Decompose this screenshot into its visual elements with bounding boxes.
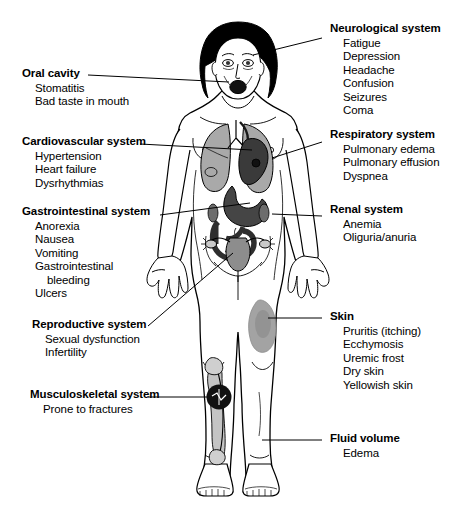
callout-renal-system: Renal system Anemia Oliguria/anuria	[330, 203, 416, 245]
callout-reproductive-system: Reproductive system Sexual dysfunction I…	[32, 318, 146, 360]
list-item: Hypertension	[35, 150, 146, 163]
callout-list: Pruritis (itching) Ecchymosis Uremic fro…	[330, 325, 421, 392]
list-item: Fatigue	[343, 37, 441, 50]
list-item: Stomatitis	[35, 82, 129, 95]
kidney-left	[208, 204, 218, 222]
list-item: Dry skin	[343, 365, 421, 378]
list-item: Ulcers	[35, 287, 150, 300]
list-item: Dyspnea	[343, 170, 439, 183]
callout-list: Stomatitis Bad taste in mouth	[22, 82, 129, 109]
list-item: Edema	[343, 447, 400, 460]
callout-title: Gastrointestinal system	[22, 205, 150, 218]
list-item: Prone to fractures	[43, 403, 159, 416]
callout-cardiovascular-system: Cardiovascular system Hypertension Heart…	[22, 135, 146, 190]
callout-title: Reproductive system	[32, 318, 146, 331]
callout-list: Sexual dysfunction Infertility	[32, 333, 146, 360]
callout-title: Respiratory system	[330, 128, 439, 141]
list-item: Heart failure	[35, 163, 146, 176]
list-item: Nausea	[35, 233, 150, 246]
callout-title: Fluid volume	[330, 432, 400, 445]
callout-fluid-volume: Fluid volume Edema	[330, 432, 400, 460]
list-item: Oliguria/anuria	[343, 231, 416, 244]
callout-oral-cavity: Oral cavity Stomatitis Bad taste in mout…	[22, 67, 129, 109]
ovary-right	[260, 240, 271, 248]
list-item: Infertility	[45, 346, 146, 359]
list-item: Headache	[343, 64, 441, 77]
list-item: Pulmonary edema	[343, 143, 439, 156]
list-item: Pulmonary effusion	[343, 156, 439, 169]
kidney-right	[259, 204, 269, 222]
hand-right	[288, 256, 329, 298]
callout-list: Anemia Oliguria/anuria	[330, 218, 416, 245]
callout-list: Fatigue Depression Headache Confusion Se…	[330, 37, 441, 117]
list-item: Coma	[343, 104, 441, 117]
uterus	[226, 238, 250, 271]
heart-detail	[252, 159, 260, 167]
skin-lesion-core	[255, 310, 271, 338]
pupil-right	[246, 61, 250, 65]
callout-skin: Skin Pruritis (itching) Ecchymosis Uremi…	[330, 310, 421, 392]
callout-gastrointestinal-system: Gastrointestinal system Anorexia Nausea …	[22, 205, 150, 300]
list-item: Yellowish skin	[343, 379, 421, 392]
list-item: Vomiting	[35, 247, 150, 260]
list-item: bleeding	[35, 274, 150, 287]
callout-title: Renal system	[330, 203, 416, 216]
callout-list: Prone to fractures	[30, 403, 159, 416]
list-item: Depression	[343, 50, 441, 63]
list-item: Uremic frost	[343, 352, 421, 365]
callout-title: Cardiovascular system	[22, 135, 146, 148]
callout-list: Pulmonary edema Pulmonary effusion Dyspn…	[330, 143, 439, 183]
list-item: Gastrointestinal	[35, 260, 150, 273]
callout-list: Hypertension Heart failure Dysrhythmias	[22, 150, 146, 190]
ankle-bone	[209, 450, 225, 465]
mouth-open	[230, 80, 246, 93]
list-item: Ecchymosis	[343, 338, 421, 351]
callout-respiratory-system: Respiratory system Pulmonary edema Pulmo…	[330, 128, 439, 183]
callout-list: Anorexia Nausea Vomiting Gastrointestina…	[22, 220, 150, 300]
list-item: Anemia	[343, 218, 416, 231]
hand-left	[147, 256, 188, 298]
patella	[205, 358, 223, 375]
ovary-left	[206, 240, 217, 248]
callout-title: Skin	[330, 310, 421, 323]
foot-left	[197, 464, 233, 496]
list-item: Pruritis (itching)	[343, 325, 421, 338]
list-item: Confusion	[343, 77, 441, 90]
callout-title: Musculoskeletal system	[30, 388, 159, 401]
callout-title: Oral cavity	[22, 67, 129, 80]
list-item: Anorexia	[35, 220, 150, 233]
callout-list: Edema	[330, 447, 400, 460]
callout-title: Neurological system	[330, 22, 441, 35]
foot-right	[243, 464, 279, 496]
pupil-left	[226, 61, 230, 65]
list-item: Sexual dysfunction	[45, 333, 146, 346]
list-item: Seizures	[343, 91, 441, 104]
callout-neurological-system: Neurological system Fatigue Depression H…	[330, 22, 441, 117]
callout-musculoskeletal-system: Musculoskeletal system Prone to fracture…	[30, 388, 159, 416]
list-item: Dysrhythmias	[35, 177, 146, 190]
list-item: Bad taste in mouth	[35, 95, 129, 108]
